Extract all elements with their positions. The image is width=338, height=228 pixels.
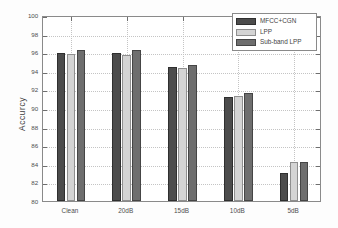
bar: [280, 173, 289, 201]
y-tick-mark: [43, 17, 47, 18]
bar: [290, 162, 299, 201]
legend-label: LPP: [260, 29, 272, 35]
y-tick-mark: [43, 129, 47, 130]
y-tick-mark: [316, 166, 320, 167]
legend-label: MFCC+CGN: [260, 18, 296, 24]
x-tick-label: Clean: [62, 208, 79, 214]
y-tick-mark: [316, 184, 320, 185]
chart-figure: Accurcy 80828486889092949698100 Clean20d…: [0, 0, 338, 228]
y-tick-label: 80: [12, 199, 38, 205]
bar: [77, 50, 86, 201]
y-tick-label: 82: [12, 180, 38, 186]
y-tick-label: 92: [12, 87, 38, 93]
x-tick-label: 15dB: [174, 208, 189, 214]
bar: [168, 67, 177, 201]
y-tick-mark: [43, 166, 47, 167]
x-tick-label: 20dB: [118, 208, 133, 214]
x-tick-mark: [127, 17, 128, 21]
bar: [112, 53, 121, 201]
y-tick-mark: [316, 147, 320, 148]
y-tick-mark: [43, 54, 47, 55]
legend-item-lpp: LPP: [236, 27, 313, 37]
y-tick-label: 94: [12, 69, 38, 75]
y-tick-mark: [316, 91, 320, 92]
bar: [244, 93, 253, 201]
x-tick-mark: [183, 17, 184, 21]
y-axis-title: Accurcy: [17, 97, 27, 131]
bar: [234, 96, 243, 201]
y-tick-mark: [43, 91, 47, 92]
y-tick-mark: [316, 129, 320, 130]
y-tick-mark: [316, 110, 320, 111]
y-tick-mark: [43, 36, 47, 37]
legend-label: Sub-band LPP: [260, 39, 302, 45]
chart-legend: MFCC+CGN LPP Sub-band LPP: [232, 13, 317, 51]
bar: [224, 97, 233, 201]
y-tick-mark: [43, 184, 47, 185]
y-tick-mark: [43, 73, 47, 74]
x-tick-label: 5dB: [287, 208, 298, 214]
x-tick-label: 10dB: [230, 208, 245, 214]
y-tick-label: 84: [12, 162, 38, 168]
bar: [57, 53, 66, 201]
y-tick-label: 100: [12, 13, 38, 19]
bar: [132, 50, 141, 201]
y-tick-label: 98: [12, 32, 38, 38]
y-tick-label: 86: [12, 143, 38, 149]
bar: [188, 65, 197, 201]
y-tick-mark: [43, 147, 47, 148]
legend-swatch-icon: [236, 39, 256, 46]
legend-item-mfcc-cgn: MFCC+CGN: [236, 17, 313, 27]
legend-swatch-icon: [236, 29, 256, 36]
bar: [122, 55, 131, 201]
bar: [178, 68, 187, 201]
bar: [67, 54, 76, 201]
y-tick-mark: [316, 54, 320, 55]
legend-item-sub-band-lpp: Sub-band LPP: [236, 38, 313, 48]
bar: [300, 162, 309, 201]
x-tick-mark: [71, 17, 72, 21]
legend-swatch-icon: [236, 18, 256, 25]
y-tick-mark: [316, 73, 320, 74]
y-tick-mark: [43, 110, 47, 111]
y-tick-label: 96: [12, 50, 38, 56]
